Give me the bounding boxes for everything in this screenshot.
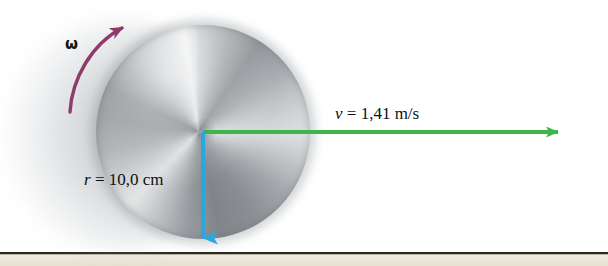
velocity-label: v = 1,41 m/s <box>335 104 419 124</box>
velocity-symbol: v <box>335 104 343 123</box>
radius-value: = 10,0 cm <box>91 170 164 189</box>
vector-overlay <box>0 0 608 266</box>
omega-label: ω <box>65 35 78 53</box>
radius-symbol: r <box>84 170 91 189</box>
radius-label: r = 10,0 cm <box>84 170 163 190</box>
physics-figure: ω r = 10,0 cm v = 1,41 m/s <box>0 0 608 266</box>
velocity-value: = 1,41 m/s <box>343 104 420 123</box>
